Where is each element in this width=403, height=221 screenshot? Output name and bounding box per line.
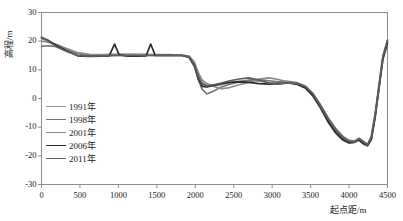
legend-item[interactable]: 2001年: [46, 126, 96, 139]
legend-item-label: 2001年: [69, 126, 96, 139]
x-tick-label: 500: [65, 190, 95, 200]
x-axis-ticks: [42, 185, 388, 189]
legend-color-swatch: [46, 119, 66, 120]
y-tick-label: 0: [11, 93, 37, 103]
legend-item-label: 2011年: [69, 152, 96, 165]
y-tick-label: -20: [11, 150, 37, 160]
x-tick-label: 2000: [180, 190, 210, 200]
legend-item[interactable]: 2011年: [46, 152, 96, 165]
legend-color-swatch: [46, 106, 66, 107]
x-tick-label: 4000: [334, 190, 364, 200]
y-tick-label: -10: [11, 121, 37, 131]
legend-color-swatch: [46, 132, 66, 133]
y-axis-title: 高程/m: [2, 30, 15, 58]
legend-item[interactable]: 1991年: [46, 100, 96, 113]
legend-color-swatch: [46, 145, 66, 146]
x-tick-label: 1500: [142, 190, 172, 200]
legend-color-swatch: [46, 158, 66, 159]
x-tick-label: 1000: [103, 190, 133, 200]
chart-legend: 1991年1998年2001年2006年2011年: [46, 100, 96, 165]
y-tick-label: 30: [11, 7, 37, 17]
x-tick-label: 0: [27, 190, 57, 200]
legend-item-label: 1998年: [69, 113, 96, 126]
chart-figure: 3020100-10-20-30 05001000150020002500300…: [0, 0, 403, 221]
legend-item[interactable]: 1998年: [46, 113, 96, 126]
legend-item[interactable]: 2006年: [46, 139, 96, 152]
x-tick-label: 4500: [373, 190, 403, 200]
legend-item-label: 1991年: [69, 100, 96, 113]
x-tick-label: 3000: [257, 190, 287, 200]
legend-item-label: 2006年: [69, 139, 96, 152]
x-axis-title: 起点距/m: [330, 203, 367, 216]
y-tick-label: -30: [11, 179, 37, 189]
y-tick-label: 10: [11, 64, 37, 74]
x-tick-label: 3500: [296, 190, 326, 200]
x-tick-label: 2500: [219, 190, 249, 200]
